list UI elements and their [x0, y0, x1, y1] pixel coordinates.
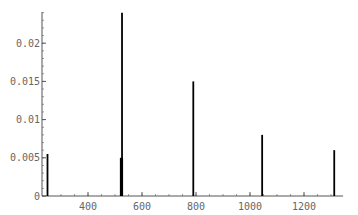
x-tick-label: 400	[79, 201, 97, 212]
y-tick-label: 0.01	[16, 114, 40, 125]
y-tick-label: 0.02	[16, 38, 40, 49]
y-tick-label: 0.005	[10, 152, 40, 163]
y-tick-label: 0	[34, 191, 40, 202]
stick-spectrum-chart: 00.0050.010.0150.0240060080010001200	[0, 0, 358, 215]
tick-labels: 00.0050.010.0150.0240060080010001200	[10, 38, 316, 212]
y-tick-label: 0.015	[10, 76, 40, 87]
data-sticks	[48, 13, 335, 196]
x-tick-label: 800	[187, 201, 205, 212]
x-tick-label: 1000	[238, 201, 262, 212]
chart-canvas: 00.0050.010.0150.0240060080010001200	[0, 0, 358, 215]
x-tick-label: 1200	[292, 201, 316, 212]
x-tick-label: 600	[133, 201, 151, 212]
